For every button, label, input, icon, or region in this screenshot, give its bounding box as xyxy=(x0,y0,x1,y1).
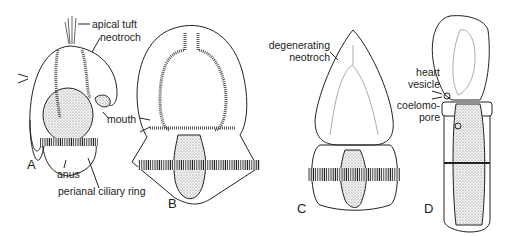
panel-label-c: C xyxy=(297,201,306,216)
label-degenerating: degenerating xyxy=(266,40,330,51)
label-coelomo: coelomo- xyxy=(395,100,440,111)
larval-stages-figure: apical tuft neotroch mouth anus perianal… xyxy=(0,0,508,236)
label-perianal-ciliary-ring: perianal ciliary ring xyxy=(58,186,146,197)
larva-b xyxy=(132,25,260,204)
larva-d xyxy=(432,16,492,232)
label-neotroch: neotroch xyxy=(100,32,141,43)
label-apical-tuft: apical tuft xyxy=(92,19,137,30)
panel-label-a: A xyxy=(27,157,36,172)
label-degenerating-neotroch: neotroch xyxy=(266,52,330,63)
label-coelomopore: pore xyxy=(395,112,440,123)
label-heart: heart xyxy=(400,67,440,78)
label-anus: anus xyxy=(57,169,80,180)
panel-label-d: D xyxy=(424,201,433,216)
label-heart-vesicle: vesicle xyxy=(400,79,440,90)
label-mouth: mouth xyxy=(107,114,136,125)
panel-label-b: B xyxy=(168,196,177,211)
